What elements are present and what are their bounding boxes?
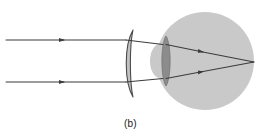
ray-lower-interlens bbox=[126, 79, 163, 83]
eye-group bbox=[150, 12, 254, 110]
eyeball-shape bbox=[156, 12, 254, 110]
panel-label-b: (b) bbox=[0, 118, 261, 130]
optics-figure-panel-b: (b) bbox=[0, 0, 261, 138]
